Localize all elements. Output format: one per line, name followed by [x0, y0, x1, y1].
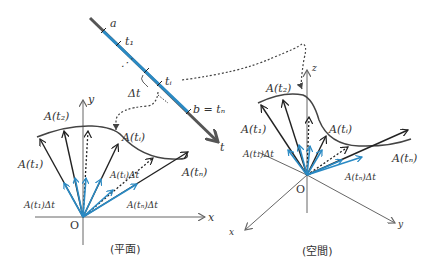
plane-caption: (平面) — [110, 243, 141, 256]
label-t: t — [220, 141, 225, 154]
plane-y-label: y — [87, 93, 95, 106]
label-ti: tᵢ — [165, 75, 172, 88]
label-t1: t₁ — [125, 35, 134, 48]
space-caption: (空間) — [302, 244, 333, 258]
plane-label-A-ti: A(tᵢ) — [121, 131, 145, 144]
space-x-label: x — [229, 227, 234, 237]
space-y-axis — [307, 175, 395, 223]
space-diagram: z x y O A(t₂) A(t₁) A(tᵢ) A(tₙ) A(t₁)Δt … — [229, 63, 417, 258]
plane-curve — [37, 126, 187, 159]
space-label-A-tn: A(tₙ) — [391, 152, 417, 165]
plane-label-A-t1: A(t₁) — [17, 158, 43, 171]
space-label-A-t1: A(t₁) — [240, 123, 266, 136]
space-label-A-tn-dt: A(tₙ)Δt — [344, 172, 376, 182]
space-label-A-ti: A(tᵢ) — [328, 123, 352, 136]
space-label-A-t2: A(t₂) — [265, 82, 291, 95]
plane-label-A-ti-dt: A(tᵢ)Δt — [109, 170, 139, 180]
plane-origin-label: O — [70, 219, 79, 232]
plane-x-label: x — [208, 211, 215, 224]
space-label-A-t1-dt: A(t₁)Δt — [242, 149, 274, 159]
label-a: a — [110, 17, 117, 30]
delta-brace — [142, 75, 149, 87]
label-delta-t: Δt — [127, 87, 141, 100]
riemann-vector-integral-diagram: a t₁ ⋰ tᵢ b = tₙ t Δt x y O — [0, 0, 437, 275]
label-b: b = tₙ — [193, 103, 225, 116]
plane-label-A-t1-dt: A(t₁)Δt — [23, 200, 55, 210]
ellipsis: ⋰ — [121, 56, 133, 69]
plane-label-A-t2: A(t₂) — [43, 110, 69, 123]
plane-diagram: x y O A(t₂) A(t₁) A(tᵢ) A(tₙ) A(t₁)Δt A(… — [17, 93, 215, 256]
space-y-label: y — [397, 219, 404, 229]
plane-label-A-tn-dt: A(tₙ)Δt — [126, 200, 158, 210]
space-z-label: z — [311, 63, 317, 73]
space-origin-label: O — [296, 183, 305, 196]
plane-label-A-tn: A(tₙ) — [181, 166, 207, 179]
